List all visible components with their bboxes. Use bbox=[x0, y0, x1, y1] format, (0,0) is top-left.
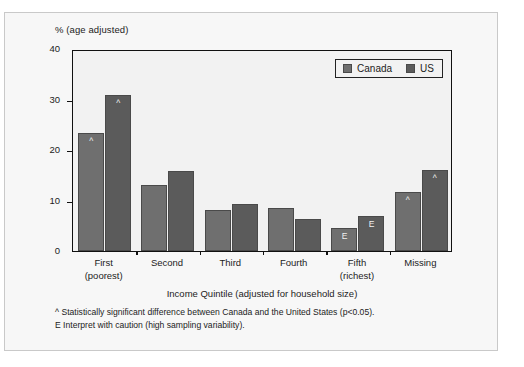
footnote-line: ^ Statistically significant difference b… bbox=[55, 306, 475, 319]
bar-marker: ^ bbox=[423, 173, 447, 183]
bar-marker: ^ bbox=[396, 195, 420, 205]
bar-us-first: ^ bbox=[105, 95, 131, 251]
y-axis-tick-label: 30 bbox=[49, 94, 60, 105]
x-axis-separator-tick bbox=[263, 251, 264, 255]
bar-group-fourth bbox=[263, 51, 326, 251]
chart-footnotes: ^ Statistically significant difference b… bbox=[55, 306, 475, 331]
x-axis-title: Income Quintile (adjusted for household … bbox=[72, 288, 452, 299]
y-axis-tick-mark bbox=[67, 202, 72, 203]
bar-us-third bbox=[232, 204, 258, 251]
x-axis-separator-tick bbox=[326, 251, 327, 255]
bar-us-fifth: E bbox=[358, 216, 384, 251]
bar-group-second bbox=[136, 51, 199, 251]
x-axis-category-labels: First(poorest)SecondThirdFourthFifth(ric… bbox=[72, 256, 452, 290]
y-axis-tick-mark bbox=[67, 101, 72, 102]
x-axis-separator-tick bbox=[200, 251, 201, 255]
x-axis-label-main: Missing bbox=[404, 257, 436, 268]
bar-us-fourth bbox=[295, 219, 321, 251]
x-axis-label-third: Third bbox=[199, 256, 262, 269]
bar-canada-fourth bbox=[268, 208, 294, 251]
y-axis-tick-label: 20 bbox=[49, 144, 60, 155]
plot-area: CanadaUS ^^EE^^ bbox=[72, 50, 452, 252]
bar-marker: E bbox=[332, 231, 356, 241]
bar-group-third bbox=[200, 51, 263, 251]
x-axis-label-missing: Missing bbox=[389, 256, 452, 269]
y-axis-tick-label: 0 bbox=[55, 245, 60, 256]
bar-group-missing: ^^ bbox=[390, 51, 453, 251]
bar-canada-first: ^ bbox=[78, 133, 104, 251]
bar-marker: ^ bbox=[106, 98, 130, 108]
bar-us-second bbox=[168, 171, 194, 251]
x-axis-label-second: Second bbox=[135, 256, 198, 269]
x-axis-label-main: Fourth bbox=[280, 257, 307, 268]
bar-marker: ^ bbox=[79, 136, 103, 146]
bars-layer: ^^EE^^ bbox=[73, 51, 451, 251]
x-axis-separator-tick bbox=[390, 251, 391, 255]
bar-us-missing: ^ bbox=[422, 170, 448, 251]
y-axis-title: % (age adjusted) bbox=[55, 24, 128, 35]
x-axis-label-fourth: Fourth bbox=[262, 256, 325, 269]
y-axis-tick-label: 10 bbox=[49, 195, 60, 206]
bar-group-first: ^^ bbox=[73, 51, 136, 251]
bar-canada-missing: ^ bbox=[395, 192, 421, 251]
y-axis-tick-mark bbox=[67, 151, 72, 152]
bar-canada-third bbox=[205, 210, 231, 251]
y-axis-tick-label: 40 bbox=[49, 43, 60, 54]
bar-group-fifth: EE bbox=[326, 51, 389, 251]
bar-canada-fifth: E bbox=[331, 228, 357, 251]
x-axis-label-main: Fifth bbox=[348, 257, 366, 268]
x-axis-label-main: Third bbox=[219, 257, 241, 268]
x-axis-separator-tick bbox=[136, 251, 137, 255]
x-axis-label-first: First(poorest) bbox=[72, 256, 135, 282]
x-axis-label-fifth: Fifth(richest) bbox=[325, 256, 388, 282]
x-axis-label-main: First bbox=[94, 257, 112, 268]
x-axis-label-sub: (poorest) bbox=[72, 269, 135, 282]
bar-canada-second bbox=[141, 185, 167, 251]
figure-root: % (age adjusted) CanadaUS ^^EE^^ 0102030… bbox=[0, 0, 524, 367]
x-axis-label-sub: (richest) bbox=[325, 269, 388, 282]
bar-marker: E bbox=[359, 219, 383, 229]
footnote-line: E Interpret with caution (high sampling … bbox=[55, 319, 475, 332]
x-axis-label-main: Second bbox=[151, 257, 183, 268]
